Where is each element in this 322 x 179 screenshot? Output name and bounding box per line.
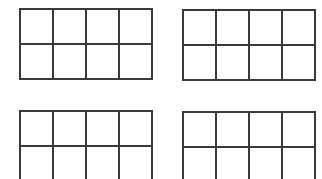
grid-top-right bbox=[182, 9, 316, 81]
grid-cell bbox=[217, 113, 250, 148]
grid-cell bbox=[21, 10, 54, 45]
grid-cell bbox=[87, 10, 120, 45]
grid-cell bbox=[217, 11, 250, 46]
grid-cell bbox=[54, 45, 87, 80]
grid-cell bbox=[283, 46, 316, 81]
grid-top-left bbox=[19, 8, 153, 80]
grid-cell bbox=[250, 11, 283, 46]
grid-cell bbox=[250, 148, 283, 179]
grid-cell bbox=[21, 45, 54, 80]
grid-cell bbox=[87, 45, 120, 80]
grid-cell bbox=[250, 113, 283, 148]
grid-cell bbox=[120, 10, 153, 45]
grid-cell bbox=[120, 147, 153, 179]
grid-cell bbox=[184, 11, 217, 46]
grid-cell bbox=[120, 112, 153, 147]
grid-cell bbox=[217, 46, 250, 81]
grid-cell bbox=[283, 148, 316, 179]
grid-cell bbox=[184, 46, 217, 81]
grid-cell bbox=[217, 148, 250, 179]
grid-cell bbox=[87, 147, 120, 179]
grid-bottom-right bbox=[182, 111, 316, 179]
grid-cell bbox=[184, 113, 217, 148]
grid-cell bbox=[87, 112, 120, 147]
grid-cell bbox=[54, 112, 87, 147]
grid-cell bbox=[21, 147, 54, 179]
grid-cell bbox=[283, 11, 316, 46]
grid-cell bbox=[283, 113, 316, 148]
grid-cell bbox=[250, 46, 283, 81]
grid-bottom-left bbox=[19, 110, 153, 179]
grid-cell bbox=[21, 112, 54, 147]
grid-cell bbox=[54, 10, 87, 45]
grid-cell bbox=[54, 147, 87, 179]
grid-cell bbox=[120, 45, 153, 80]
grid-cell bbox=[184, 148, 217, 179]
